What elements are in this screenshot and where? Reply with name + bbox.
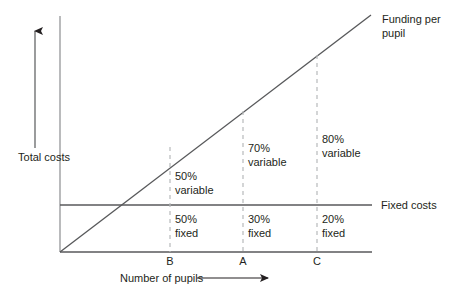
annotation-c-variable-word: variable [322,146,384,160]
fixed-costs-label: Fixed costs [381,198,437,212]
annotation-c-fixed: 20% fixed [322,212,384,240]
x-tick-label-a: A [233,254,253,268]
annotation-a-fixed: 30% fixed [248,212,310,240]
annotation-a-fixed-pct: 30% [248,212,310,226]
y-axis-label: Total costs [18,150,70,164]
annotation-a-variable-pct: 70% [248,141,310,155]
annotation-c-variable: 80% variable [322,132,384,160]
annotation-b-variable: 50% variable [175,169,237,197]
annotation-c-fixed-word: fixed [322,226,384,240]
annotation-b-variable-word: variable [175,183,237,197]
annotation-a-fixed-word: fixed [248,226,310,240]
annotation-b-variable-pct: 50% [175,169,237,183]
annotation-b-fixed: 50% fixed [175,212,237,240]
x-axis-label: Number of pupils [120,271,203,285]
annotation-b-fixed-word: fixed [175,226,237,240]
x-tick-label-c: C [307,254,327,268]
annotation-b-fixed-pct: 50% [175,212,237,226]
cost-structure-chart: Total costs Number of pupils Funding per… [0,0,454,301]
annotation-c-variable-pct: 80% [322,132,384,146]
annotation-c-fixed-pct: 20% [322,212,384,226]
funding-per-pupil-label: Funding per pupil [382,12,452,40]
annotation-a-variable: 70% variable [248,141,310,169]
annotation-a-variable-word: variable [248,155,310,169]
x-tick-label-b: B [160,254,180,268]
